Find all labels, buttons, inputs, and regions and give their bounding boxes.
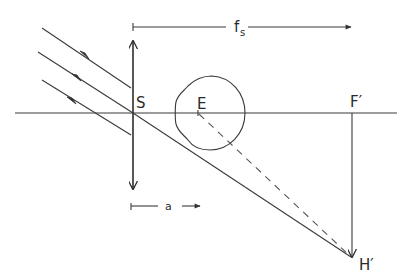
ray-arrow-icon [72,74,81,81]
incident-rays [38,28,133,135]
label-f-subscript: s [240,27,245,38]
incident-ray-top [42,28,131,88]
dimension-fs: f s [133,18,351,38]
refracted-ray-to-image [133,113,351,257]
label-eye-e: E [197,95,206,113]
incident-ray-bottom [42,80,131,135]
dimension-a: a [131,200,200,213]
label-image-point-h-prime: H′ [359,256,374,274]
label-lens-s: S [136,94,146,112]
incident-ray-middle [38,52,133,113]
ray-diagram: f s a S E F′ H′ [0,0,404,277]
dashed-sightline [199,114,350,256]
label-a: a [165,200,172,213]
label-focal-point-f-prime: F′ [350,93,363,111]
